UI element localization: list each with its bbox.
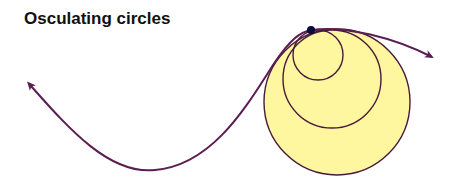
- tangent-point: [307, 26, 315, 34]
- osculating-circle-large: [264, 29, 410, 175]
- circle-group: [264, 29, 410, 175]
- osculating-circles-diagram: [0, 0, 452, 180]
